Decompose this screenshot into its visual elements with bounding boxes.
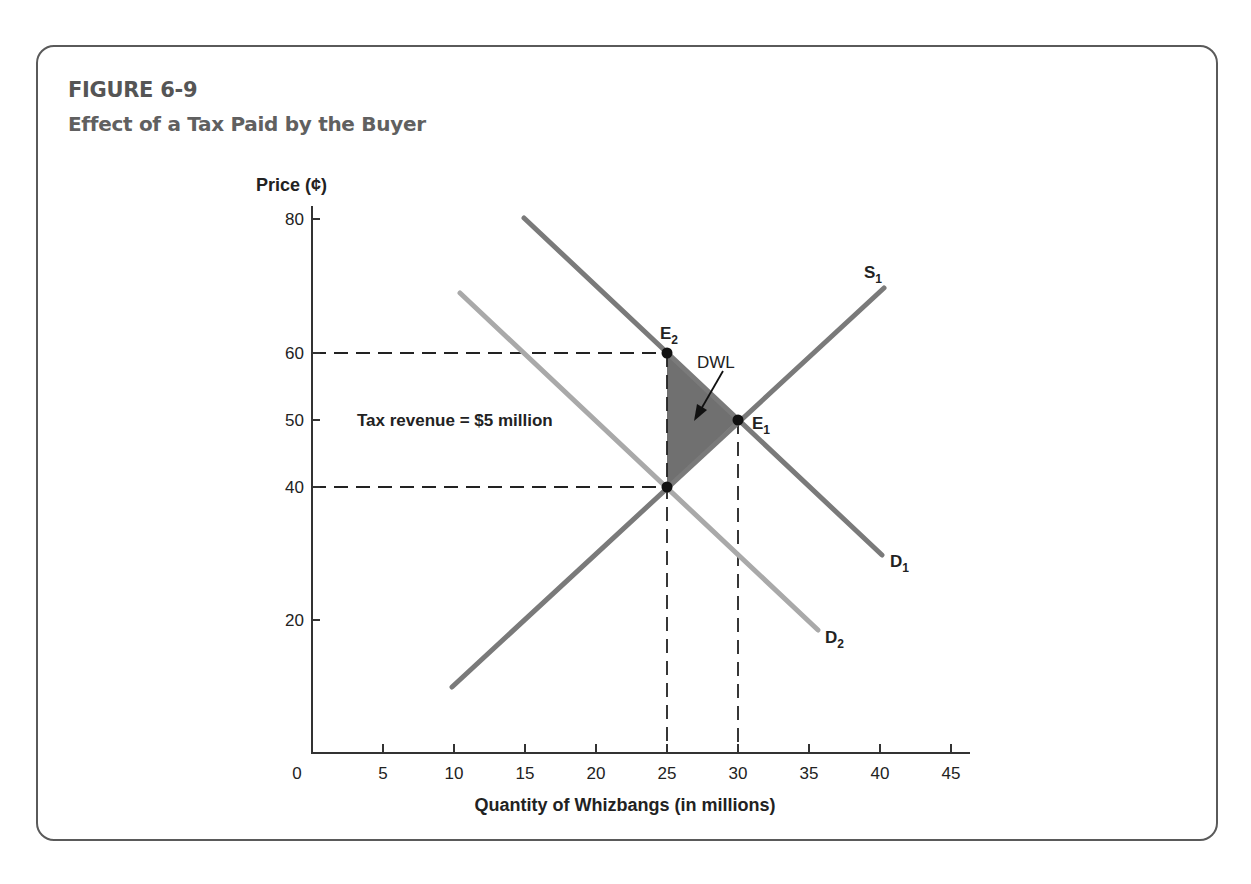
point-e2-low (662, 482, 673, 493)
x-tick-45: 45 (942, 764, 961, 783)
axes (311, 206, 970, 754)
dwl-label: DWL (697, 353, 735, 372)
chart: 80 60 50 40 20 0 5 10 15 20 25 30 35 40 … (0, 0, 1251, 884)
s1-label: S1 (864, 263, 882, 286)
d2-label: D2 (825, 628, 844, 651)
y-tick-labels: 80 60 50 40 20 (285, 210, 304, 630)
x-tick-0: 0 (292, 764, 301, 783)
tax-revenue-label: Tax revenue = $5 million (357, 411, 553, 430)
y-tick-50: 50 (285, 411, 304, 430)
d1-label: D1 (890, 552, 909, 575)
x-tick-labels: 0 5 10 15 20 25 30 35 40 45 (292, 764, 960, 783)
y-tick-60: 60 (285, 344, 304, 363)
e2-label: E2 (660, 324, 678, 347)
point-e1 (733, 415, 744, 426)
curve-d2 (460, 293, 818, 630)
x-tick-10: 10 (445, 764, 464, 783)
curve-d1 (524, 218, 882, 555)
y-tick-40: 40 (285, 478, 304, 497)
y-axis-title: Price (¢) (256, 175, 327, 195)
x-tick-5: 5 (378, 764, 387, 783)
x-tick-20: 20 (587, 764, 606, 783)
x-tick-30: 30 (729, 764, 748, 783)
y-tick-20: 20 (285, 611, 304, 630)
x-tick-40: 40 (871, 764, 890, 783)
x-tick-15: 15 (516, 764, 535, 783)
dwl-region (667, 353, 738, 487)
y-tick-80: 80 (285, 210, 304, 229)
x-tick-35: 35 (800, 764, 819, 783)
point-e2 (662, 348, 673, 359)
x-tick-25: 25 (658, 764, 677, 783)
x-axis-title: Quantity of Whizbangs (in millions) (475, 795, 776, 815)
